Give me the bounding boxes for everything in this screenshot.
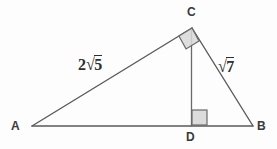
radical-cb: √7 (218, 57, 234, 75)
side-length-cb-radicand: 7 (226, 57, 234, 75)
segment-ac (32, 28, 192, 126)
right-angle-marker-c (179, 28, 199, 49)
side-length-ac-radicand: 5 (94, 55, 102, 73)
vertex-label-d: D (186, 131, 195, 143)
side-length-label-ac: 2√5 (78, 55, 102, 73)
side-length-label-cb: √7 (218, 57, 234, 75)
vertex-label-b: B (257, 120, 266, 132)
triangle-diagram-svg (0, 0, 277, 149)
radical-ac: √5 (86, 55, 102, 73)
side-length-ac-coefficient: 2 (78, 57, 86, 73)
vertex-label-c: C (187, 6, 196, 18)
right-angle-marker-d (192, 110, 207, 125)
vertex-label-a: A (11, 120, 20, 132)
geometry-figure: A B C D 2√5 √7 (0, 0, 277, 149)
